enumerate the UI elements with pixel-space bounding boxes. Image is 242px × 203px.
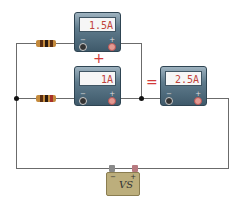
positive-terminal-icon: [108, 43, 116, 51]
wire-left-vertical: [16, 43, 17, 169]
wire-top-right-drop: [141, 43, 142, 99]
negative-terminal-icon: [165, 97, 173, 105]
plus-operator: +: [93, 50, 105, 66]
junction-right: [139, 96, 144, 101]
equals-operator: =: [146, 74, 158, 90]
ammeter-top: 1.5A − +: [74, 12, 121, 52]
minus-label: −: [110, 173, 116, 181]
resistor-middle: [36, 95, 56, 102]
resistor-top: [36, 40, 56, 47]
battery-negative-terminal-icon: [109, 165, 115, 172]
negative-terminal-icon: [79, 43, 87, 51]
junction-left: [14, 96, 19, 101]
meter-display: 1.5A: [79, 17, 116, 32]
ammeter-total: 2.5A − +: [160, 66, 207, 106]
meter-display: 2.5A: [165, 71, 202, 86]
positive-terminal-icon: [108, 97, 116, 105]
positive-terminal-icon: [194, 97, 202, 105]
meter-display: 1A: [79, 71, 116, 86]
battery-positive-terminal-icon: [132, 165, 138, 172]
wire-bottom: [16, 168, 229, 169]
ammeter-middle: 1A − +: [74, 66, 121, 106]
negative-terminal-icon: [79, 97, 87, 105]
wire-right-vertical: [228, 98, 229, 169]
battery: − + VS: [106, 172, 140, 196]
battery-label: VS: [119, 179, 133, 190]
